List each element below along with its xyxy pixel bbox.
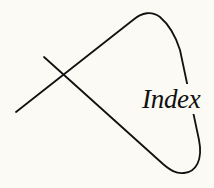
index-label: Index: [141, 84, 201, 114]
